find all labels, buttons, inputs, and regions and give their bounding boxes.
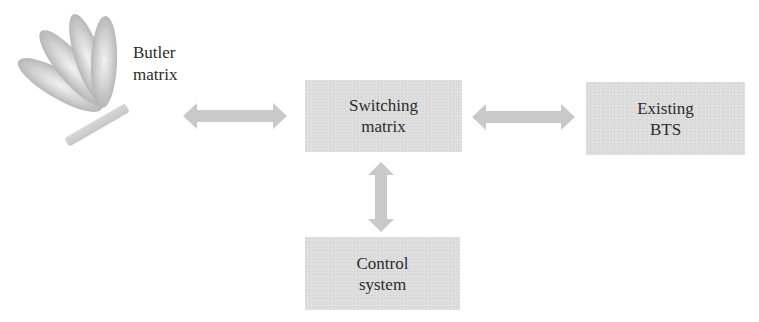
bidirectional-arrow-switching-bts [472, 104, 575, 130]
bidirectional-arrow-antenna-switching [183, 103, 287, 129]
switching-matrix-line2: matrix [361, 116, 405, 137]
butler-matrix-label-line2: matrix [133, 64, 177, 86]
existing-bts-line1: Existing [637, 98, 694, 119]
control-system-line1: Control [357, 253, 409, 274]
butler-matrix-label: Butler matrix [133, 42, 177, 86]
existing-bts-line2: BTS [650, 119, 681, 140]
existing-bts-box: Existing BTS [586, 82, 745, 155]
bidirectional-arrow-switching-control [368, 162, 394, 232]
antenna-lobes [11, 10, 118, 121]
control-system-line2: system [359, 274, 406, 295]
butler-matrix-label-line1: Butler [133, 42, 177, 64]
switching-matrix-box: Switching matrix [305, 80, 462, 152]
control-system-box: Control system [305, 237, 460, 310]
diagram-canvas: Butler matrix Switching matrix Existing … [0, 0, 759, 322]
switching-matrix-line1: Switching [349, 95, 418, 116]
